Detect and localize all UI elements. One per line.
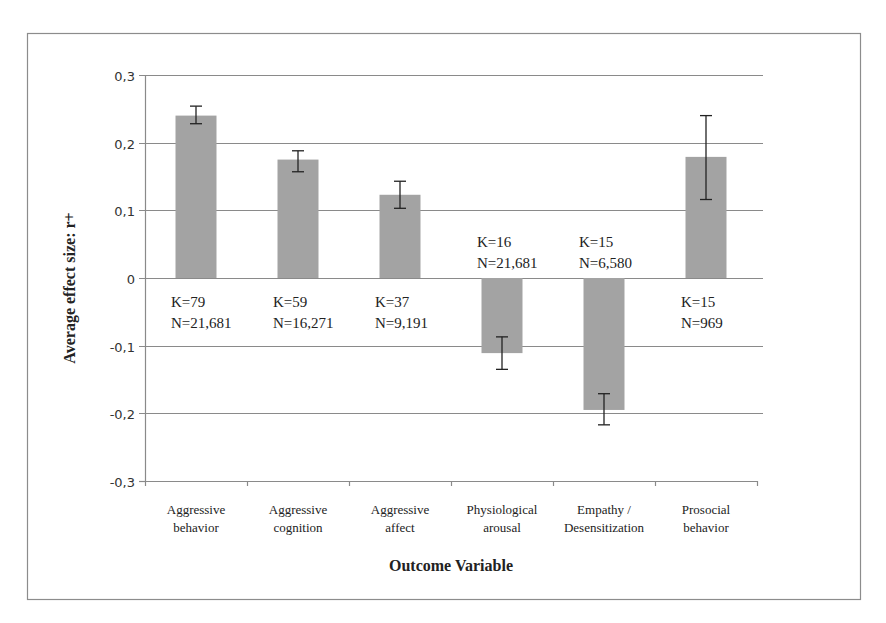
category-label: behavior: [173, 520, 219, 535]
y-tick-label: -0,3: [110, 475, 135, 490]
y-tick-label: -0,1: [110, 340, 135, 355]
category-label: cognition: [273, 520, 323, 535]
category-label: affect: [385, 520, 415, 535]
annotation-n: N=9,191: [375, 315, 428, 331]
category-label: Desensitization: [564, 520, 645, 535]
category-label: behavior: [683, 520, 729, 535]
chart-frame: [28, 34, 861, 600]
annotation-n: N=21,681: [477, 255, 538, 271]
annotation-k: K=15: [681, 294, 715, 310]
annotation-n: N=969: [681, 315, 723, 331]
category-label: Aggressive: [167, 502, 226, 517]
category-label: Aggressive: [371, 502, 430, 517]
annotation-k: K=37: [375, 294, 410, 310]
bar: [278, 160, 319, 278]
annotation-k: K=16: [477, 234, 512, 250]
y-tick-label: 0,3: [114, 69, 135, 84]
annotation-k: K=15: [579, 234, 613, 250]
bar: [584, 278, 625, 410]
annotation-k: K=59: [273, 294, 307, 310]
chart-container: 0,30,20,10-0,1-0,2-0,3 Aggressivebehavio…: [0, 0, 886, 623]
annotation-n: N=21,681: [171, 315, 232, 331]
x-axis-title: Outcome Variable: [389, 557, 513, 574]
bar: [176, 116, 217, 278]
y-axis-title: Average effect size: r+: [61, 212, 79, 363]
category-label: Physiological: [467, 502, 538, 517]
annotation-n: N=16,271: [273, 315, 334, 331]
annotation-k: K=79: [171, 294, 205, 310]
category-label: Empathy /: [577, 502, 631, 517]
annotation-n: N=6,580: [579, 255, 632, 271]
y-tick-label: 0,1: [114, 204, 135, 219]
y-tick-label: 0,2: [114, 137, 135, 152]
category-label: Prosocial: [682, 502, 731, 517]
bar-chart: 0,30,20,10-0,1-0,2-0,3 Aggressivebehavio…: [0, 0, 886, 623]
y-tick-label: 0: [127, 272, 135, 287]
y-tick-label: -0,2: [110, 407, 135, 422]
category-label: arousal: [483, 520, 521, 535]
category-label: Aggressive: [269, 502, 328, 517]
